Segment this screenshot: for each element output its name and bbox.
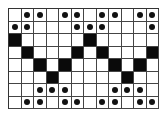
dot-cell (22, 97, 35, 110)
empty-cell (122, 9, 135, 22)
dot-icon (62, 99, 68, 105)
dot-cell (59, 9, 72, 22)
empty-cell (84, 72, 97, 85)
dot-cell (147, 9, 160, 22)
empty-cell (9, 97, 22, 110)
empty-cell (134, 22, 147, 35)
dot-cell (84, 22, 97, 35)
dot-cell (134, 84, 147, 97)
filled-cell (22, 47, 35, 60)
dot-cell (47, 84, 60, 97)
empty-cell (109, 22, 122, 35)
dot-icon (74, 24, 80, 30)
empty-cell (122, 47, 135, 60)
empty-cell (47, 9, 60, 22)
empty-cell (22, 59, 35, 72)
empty-cell (9, 47, 22, 60)
dot-cell (134, 9, 147, 22)
filled-cell (147, 47, 160, 60)
empty-cell (109, 34, 122, 47)
dot-cell (109, 97, 122, 110)
empty-cell (22, 84, 35, 97)
empty-cell (147, 72, 160, 85)
dot-icon (149, 99, 155, 105)
dot-icon (24, 99, 30, 105)
dot-icon (149, 12, 155, 18)
empty-cell (97, 84, 110, 97)
empty-cell (59, 22, 72, 35)
dot-icon (149, 24, 155, 30)
filled-cell (84, 34, 97, 47)
empty-cell (134, 34, 147, 47)
empty-cell (84, 47, 97, 60)
dot-icon (99, 12, 105, 18)
empty-cell (34, 34, 47, 47)
filled-cell (97, 47, 110, 60)
empty-cell (97, 59, 110, 72)
dot-cell (34, 97, 47, 110)
dot-icon (99, 24, 105, 30)
dot-cell (147, 22, 160, 35)
empty-cell (122, 22, 135, 35)
empty-cell (9, 72, 22, 85)
empty-cell (84, 97, 97, 110)
empty-cell (147, 84, 160, 97)
dot-cell (134, 97, 147, 110)
dot-icon (24, 24, 30, 30)
empty-cell (134, 47, 147, 60)
empty-cell (34, 47, 47, 60)
filled-cell (34, 59, 47, 72)
empty-cell (59, 47, 72, 60)
filled-cell (122, 72, 135, 85)
dot-icon (62, 87, 68, 93)
filled-cell (59, 59, 72, 72)
empty-cell (47, 22, 60, 35)
dot-cell (72, 22, 85, 35)
empty-cell (84, 59, 97, 72)
dot-icon (24, 12, 30, 18)
dot-icon (137, 87, 143, 93)
empty-cell (134, 72, 147, 85)
empty-cell (147, 59, 160, 72)
filled-cell (72, 47, 85, 60)
dot-icon (99, 99, 105, 105)
empty-cell (109, 72, 122, 85)
dot-icon (74, 12, 80, 18)
empty-cell (22, 72, 35, 85)
empty-cell (97, 34, 110, 47)
dot-icon (112, 12, 118, 18)
empty-cell (72, 84, 85, 97)
dot-icon (37, 87, 43, 93)
dot-icon (12, 24, 18, 30)
dot-icon (74, 99, 80, 105)
empty-cell (22, 34, 35, 47)
dot-cell (59, 97, 72, 110)
dot-icon (62, 12, 68, 18)
dot-cell (122, 84, 135, 97)
dot-cell (97, 97, 110, 110)
dot-icon (112, 99, 118, 105)
empty-cell (59, 72, 72, 85)
empty-cell (122, 97, 135, 110)
dot-icon (37, 12, 43, 18)
empty-cell (59, 34, 72, 47)
empty-cell (9, 84, 22, 97)
dot-icon (124, 87, 130, 93)
dot-cell (97, 22, 110, 35)
empty-cell (84, 9, 97, 22)
empty-cell (47, 97, 60, 110)
empty-cell (47, 59, 60, 72)
empty-cell (47, 34, 60, 47)
dot-icon (137, 99, 143, 105)
dot-icon (112, 87, 118, 93)
dot-cell (72, 9, 85, 22)
dot-cell (34, 9, 47, 22)
dot-cell (34, 84, 47, 97)
empty-cell (122, 34, 135, 47)
dot-cell (22, 22, 35, 35)
empty-cell (72, 34, 85, 47)
empty-cell (84, 84, 97, 97)
empty-cell (72, 59, 85, 72)
filled-cell (134, 59, 147, 72)
empty-cell (9, 59, 22, 72)
